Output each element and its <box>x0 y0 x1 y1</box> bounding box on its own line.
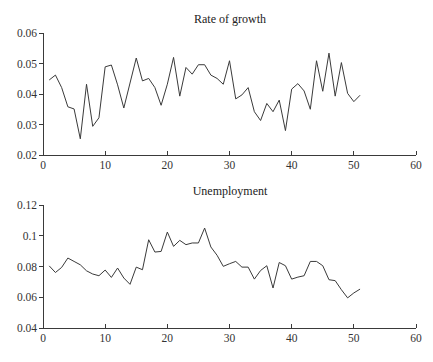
x-tick-label: 50 <box>348 332 360 344</box>
x-tick-label: 10 <box>99 159 111 171</box>
chart-title: Unemployment <box>193 184 268 198</box>
x-tick-label: 30 <box>224 159 236 171</box>
y-tick-label: 0.05 <box>17 58 37 70</box>
series-line <box>49 228 360 298</box>
y-tick-label: 0.1 <box>23 230 38 242</box>
x-tick-label: 0 <box>40 332 46 344</box>
x-axis: 0102030405060 <box>40 324 422 344</box>
x-tick-label: 60 <box>410 159 422 171</box>
y-tick-label: 0.02 <box>17 149 37 161</box>
y-axis: 0.040.060.080.10.12 <box>17 199 43 334</box>
x-tick-label: 40 <box>286 332 298 344</box>
y-tick-label: 0.04 <box>17 322 37 334</box>
y-tick-label: 0.08 <box>17 261 37 273</box>
figure: Rate of growth 0.020.030.040.050.06 0102… <box>0 0 433 362</box>
y-tick-label: 0.06 <box>17 291 37 303</box>
figure-canvas: Rate of growth 0.020.030.040.050.06 0102… <box>0 0 433 362</box>
y-tick-label: 0.12 <box>17 199 37 211</box>
x-tick-label: 50 <box>348 159 360 171</box>
x-tick-label: 60 <box>410 332 422 344</box>
y-tick-label: 0.06 <box>17 27 37 39</box>
x-tick-label: 20 <box>162 159 174 171</box>
chart-unemployment: Unemployment 0.040.060.080.10.12 0102030… <box>17 184 422 344</box>
chart-rate-of-growth: Rate of growth 0.020.030.040.050.06 0102… <box>17 12 422 171</box>
x-tick-label: 0 <box>40 159 46 171</box>
series-line <box>49 53 360 139</box>
chart-title: Rate of growth <box>194 12 266 26</box>
x-axis: 0102030405060 <box>40 151 422 171</box>
x-tick-label: 20 <box>162 332 174 344</box>
y-tick-label: 0.03 <box>17 119 37 131</box>
x-tick-label: 10 <box>99 332 111 344</box>
y-tick-label: 0.04 <box>17 88 37 100</box>
x-tick-label: 30 <box>224 332 236 344</box>
x-tick-label: 40 <box>286 159 298 171</box>
y-axis: 0.020.030.040.050.06 <box>17 27 43 161</box>
